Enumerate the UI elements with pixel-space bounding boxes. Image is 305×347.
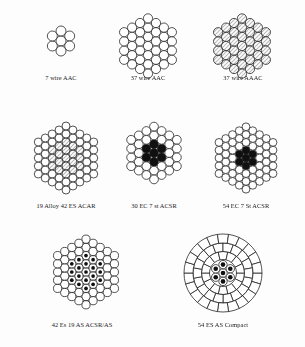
diagram-cell-7-wire-aac <box>30 10 92 72</box>
conductor-art-d8 <box>180 230 266 316</box>
diagram-cell-30-ec-7-st-acsr <box>119 118 189 188</box>
caption-37-wire-aaac: 37 wire AAAC <box>202 75 284 81</box>
conductor-art-d1 <box>30 10 92 72</box>
caption-30-ec-7-st-acsr: 30 EC 7 st ACSR <box>114 203 194 209</box>
diagram-cell-54-es-as-compact <box>180 230 266 316</box>
caption-42-es-19-as-acsr-as: 42 Es 19 AS ACSR/AS <box>20 322 144 328</box>
caption-7-wire-aac: 7 wire AAC <box>18 75 104 81</box>
diagram-cell-37-wire-aac <box>112 10 184 82</box>
diagram-cell-42-es-19-as-acsr-as <box>44 230 128 314</box>
conductor-cross-section-figure: 7 wire AAC 37 wire AAC 37 wire AAAC 19 A… <box>0 0 305 347</box>
conductor-art-d6 <box>206 118 286 198</box>
conductor-art-d4 <box>26 118 106 198</box>
conductor-art-d5 <box>119 118 189 188</box>
diagram-cell-19-alloy-42-es-acar <box>26 118 106 198</box>
caption-37-wire-aac: 37 wire AAC <box>110 75 186 81</box>
conductor-art-d2 <box>112 10 184 82</box>
caption-54-ec-7-st-acsr: 54 EC 7 St ACSR <box>204 203 288 209</box>
diagram-cell-54-ec-7-st-acsr <box>206 118 286 198</box>
conductor-art-d3 <box>206 10 278 82</box>
caption-54-es-as-compact: 54 ES AS Compact <box>178 322 268 328</box>
caption-19-alloy-42-es-acar: 19 Alloy 42 ES ACAR <box>14 203 118 209</box>
conductor-art-d7 <box>44 230 128 314</box>
diagram-cell-37-wire-aaac <box>206 10 278 82</box>
